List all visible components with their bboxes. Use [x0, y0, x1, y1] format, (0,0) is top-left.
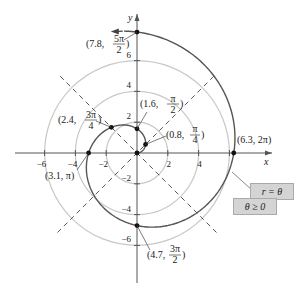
- label-7.8-5pi-2: (7.8,5π2): [86, 33, 129, 55]
- label-6.3-2pi: (6.3, 2π): [237, 134, 271, 146]
- label-paren-close: ): [201, 129, 204, 141]
- y-tick-label: −4: [121, 204, 131, 214]
- y-tick-label: 2: [127, 111, 132, 121]
- label-denominator: 2: [171, 104, 176, 115]
- label-paren-close: ): [182, 249, 185, 261]
- label-paren-r: (0.8,: [166, 129, 184, 141]
- label-denominator: 4: [193, 134, 198, 145]
- label-denominator: 2: [117, 44, 122, 55]
- y-tick-label: −2: [121, 173, 131, 183]
- label-4.7-3pi-2: (4.7,3π2): [147, 243, 185, 265]
- label-paren-close: ): [180, 98, 183, 110]
- label-paren-r: (2.4,: [58, 114, 76, 126]
- x-axis-arrow: [265, 151, 272, 156]
- point-labels: (7.8,5π2)(2.4,3π4)(1.6,π2)(0.8,π4)(3.1, …: [45, 33, 271, 265]
- label-numerator: π: [170, 93, 175, 104]
- label-numerator: 3π: [170, 243, 180, 254]
- y-tick-label: 4: [127, 80, 132, 90]
- spiral-arrow-tail: [115, 31, 123, 32]
- leader-0.8: [146, 136, 166, 144]
- label-numerator: 5π: [114, 33, 124, 44]
- polar-chart: −6−4−224642−2−4−6 (7.8,5π2)(2.4,3π4)(1.6…: [0, 0, 294, 289]
- data-point: [231, 151, 236, 156]
- label-denominator: 4: [89, 120, 94, 131]
- label-paren-close: ): [126, 38, 129, 50]
- label-numerator: 3π: [86, 109, 96, 120]
- label-numerator: π: [192, 123, 197, 134]
- leader-1.6: [137, 112, 147, 129]
- x-axis-label: x: [263, 156, 269, 167]
- x-tick-label: −4: [68, 159, 78, 169]
- label-paren-close: ): [98, 114, 101, 126]
- x-tick-label: 4: [197, 159, 202, 169]
- y-tick-label: −6: [121, 234, 131, 244]
- legend-domain: θ ≥ 0: [233, 198, 277, 215]
- y-axis-label: y: [127, 12, 133, 23]
- x-tick-label: 2: [167, 159, 172, 169]
- label-paren-r: (1.6,: [140, 98, 158, 110]
- label-0.8-pi-4: (0.8,π4): [166, 123, 204, 145]
- label-2.4-3pi-4: (2.4,3π4): [58, 109, 101, 131]
- leader-4.7: [137, 226, 150, 250]
- label-paren-r: (4.7,: [147, 249, 165, 261]
- legend-leader: [232, 172, 252, 190]
- x-tick-label: −2: [98, 159, 108, 169]
- y-tick-label: 6: [127, 50, 132, 60]
- origin-point: [135, 151, 140, 156]
- label-denominator: 2: [173, 254, 178, 265]
- label-3.1-pi: (3.1, π): [45, 170, 74, 182]
- x-tick-label: −6: [37, 159, 47, 169]
- label-paren-r: (7.8,: [86, 38, 104, 50]
- y-axis-arrow: [135, 14, 140, 21]
